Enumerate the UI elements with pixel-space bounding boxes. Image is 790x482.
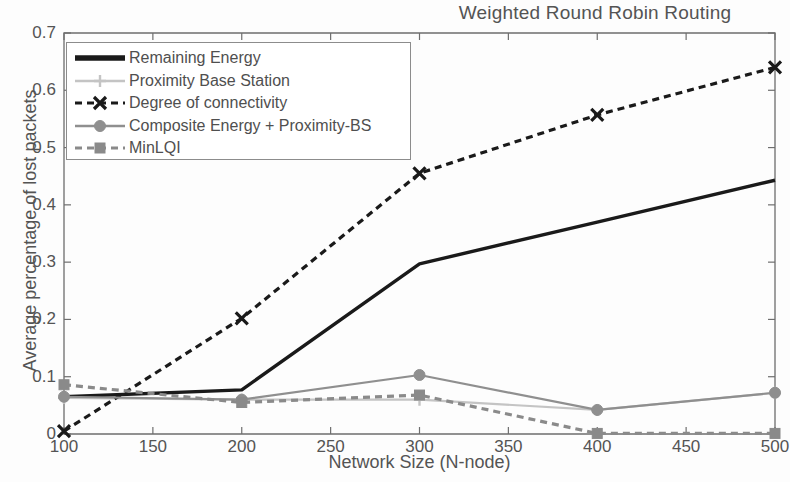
data-point-marker <box>237 397 247 407</box>
legend-label: Proximity Base Station <box>129 72 290 90</box>
data-point-marker <box>95 120 106 131</box>
data-point-marker <box>236 312 248 324</box>
legend-label: MinLQI <box>129 139 181 157</box>
data-point-marker <box>59 391 70 402</box>
data-point-marker <box>94 75 106 87</box>
legend-item-3[interactable]: Composite Energy + Proximity-BS <box>73 115 371 137</box>
data-point-marker <box>95 143 105 153</box>
data-point-marker <box>770 387 781 398</box>
data-point-marker <box>592 428 602 438</box>
chart-figure: Weighted Round Robin Routing Average per… <box>0 0 790 482</box>
data-point-marker <box>592 404 603 415</box>
legend-item-1[interactable]: Proximity Base Station <box>73 70 290 92</box>
legend-marker-icon <box>73 72 127 90</box>
legend-marker-icon <box>73 49 127 67</box>
legend-item-0[interactable]: Remaining Energy <box>73 47 261 69</box>
legend-marker-icon <box>73 94 127 112</box>
data-point-marker <box>414 167 426 179</box>
legend-marker-icon <box>73 139 127 157</box>
data-point-marker <box>591 109 603 121</box>
data-point-marker <box>59 380 69 390</box>
legend-item-2[interactable]: Degree of connectivity <box>73 92 287 114</box>
legend-label: Composite Energy + Proximity-BS <box>129 117 371 135</box>
data-point-marker <box>415 390 425 400</box>
legend-label: Remaining Energy <box>129 49 261 67</box>
legend-label: Degree of connectivity <box>129 94 287 112</box>
data-point-marker <box>770 428 780 438</box>
data-point-marker <box>414 369 425 380</box>
chart-legend: Remaining EnergyProximity Base StationDe… <box>66 42 411 160</box>
legend-marker-icon <box>73 117 127 135</box>
legend-item-4[interactable]: MinLQI <box>73 137 181 159</box>
